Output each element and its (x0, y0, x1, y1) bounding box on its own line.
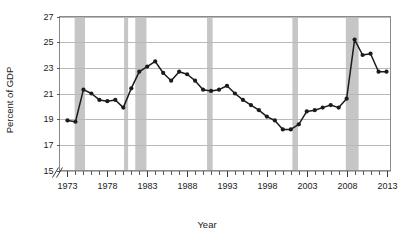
series-data-point (161, 71, 165, 75)
series-data-point (153, 59, 157, 63)
x-tick-label: 2008 (337, 181, 357, 191)
recession-band (135, 17, 146, 171)
series-data-point (289, 127, 293, 131)
chart-canvas: 15171921232527 1973197819831988199319982… (0, 0, 407, 240)
x-tick-label: 1993 (217, 181, 237, 191)
series-data-point (185, 72, 189, 76)
x-tick-label: 1973 (57, 181, 77, 191)
series-data-point (73, 120, 77, 124)
y-tick-label: 23 (43, 63, 53, 73)
series-data-point (305, 109, 309, 113)
series-data-point (376, 70, 380, 74)
series-data-point (209, 89, 213, 93)
y-axis-ticks-group: 15171921232527 (43, 12, 59, 176)
x-tick-label: 1978 (97, 181, 117, 191)
data-series-group (65, 38, 388, 132)
y-axis-title: Percent of GDP (4, 67, 15, 134)
series-data-point (313, 108, 317, 112)
series-data-point (345, 97, 349, 101)
series-data-point (113, 98, 117, 102)
series-data-point (281, 127, 285, 131)
series-data-point (360, 53, 364, 57)
y-tick-label: 19 (43, 114, 53, 124)
x-axis-title: Year (197, 219, 216, 230)
y-axis-break-icon (53, 168, 63, 178)
series-data-point (145, 64, 149, 68)
series-data-point (265, 115, 269, 119)
series-data-point (249, 103, 253, 107)
x-tick-label: 1983 (137, 181, 157, 191)
y-tick-label: 25 (43, 37, 53, 47)
series-data-point (225, 84, 229, 88)
series-data-point (353, 38, 357, 42)
series-data-point (233, 91, 237, 95)
series-data-point (297, 122, 301, 126)
y-tick-label: 21 (43, 89, 53, 99)
series-data-point (81, 88, 85, 92)
series-data-point (129, 86, 133, 90)
series-data-point (65, 118, 69, 122)
series-data-point (105, 99, 109, 103)
series-data-point (329, 103, 333, 107)
series-data-point (321, 106, 325, 110)
y-tick-label: 27 (43, 12, 53, 22)
gdp-percent-line-chart: 15171921232527 1973197819831988199319982… (0, 0, 407, 240)
recession-band (292, 17, 298, 171)
series-data-point (121, 106, 125, 110)
gridlines-group (60, 18, 391, 172)
series-data-point (384, 70, 388, 74)
x-axis-ticks-group: 197319781983198819931998200320082013 (57, 171, 397, 191)
series-data-point (201, 88, 205, 92)
y-tick-label: 17 (43, 140, 53, 150)
recession-band (207, 17, 213, 171)
recession-band (75, 17, 85, 171)
y-tick-label: 15 (43, 166, 53, 176)
series-data-point (273, 118, 277, 122)
series-data-point (169, 79, 173, 83)
series-data-point (89, 91, 93, 95)
x-tick-label: 1998 (257, 181, 277, 191)
series-data-point (257, 108, 261, 112)
x-tick-label: 2013 (377, 181, 397, 191)
x-tick-label: 1988 (177, 181, 197, 191)
series-data-point (337, 106, 341, 110)
series-data-point (368, 52, 372, 56)
series-data-point (137, 70, 141, 74)
plot-frame (60, 17, 391, 171)
series-data-point (177, 70, 181, 74)
series-data-point (97, 98, 101, 102)
series-data-point (193, 79, 197, 83)
recession-band (124, 17, 128, 171)
series-data-point (241, 98, 245, 102)
series-data-point (217, 88, 221, 92)
recession-bands-group (75, 17, 359, 171)
x-tick-label: 2003 (297, 181, 317, 191)
